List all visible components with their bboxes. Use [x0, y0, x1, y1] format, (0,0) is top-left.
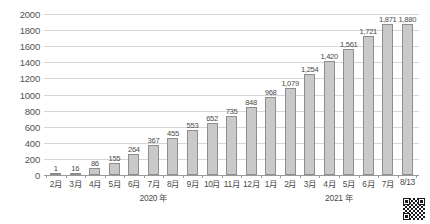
bar[interactable]: 367	[148, 145, 159, 175]
bar-value-label: 1	[54, 164, 58, 173]
bar[interactable]: 652	[207, 123, 218, 175]
bar[interactable]: 1,721	[363, 36, 374, 175]
bar-value-label: 968	[265, 88, 277, 97]
bar-value-label: 155	[108, 154, 120, 163]
y-axis-tick-label: 1400	[20, 57, 40, 68]
bar-slot: 1,561	[339, 14, 359, 175]
bar-value-label: 553	[187, 121, 199, 130]
bar-slot: 968	[261, 14, 281, 175]
bar[interactable]: 848	[246, 107, 257, 175]
x-axis-tick-label: 8/13	[398, 177, 418, 191]
bar[interactable]: 968	[265, 97, 276, 175]
qr-code[interactable]	[402, 197, 426, 221]
x-axis-tick-label: 4月	[319, 177, 339, 191]
qr-finder-top-left	[403, 198, 410, 205]
bar-value-label: 652	[206, 114, 218, 123]
bar-slot: 264	[124, 14, 144, 175]
y-axis-tick-label: 1600	[20, 41, 40, 52]
bar-slot: 1,721	[359, 14, 379, 175]
bar-slot: 1,079	[280, 14, 300, 175]
bar[interactable]: 455	[167, 138, 178, 175]
y-axis: 0200400600800100012001400160018002000	[0, 14, 40, 175]
bar[interactable]: 1,420	[324, 61, 335, 175]
qr-finder-bottom-left	[403, 213, 410, 220]
bar-slot: 735	[222, 14, 242, 175]
y-axis-tick-label: 2000	[20, 9, 40, 20]
bar-value-label: 1,079	[281, 79, 299, 88]
x-axis-tick-label: 5月	[339, 177, 359, 191]
bar-slot: 86	[85, 14, 105, 175]
y-axis-tick-label: 0	[35, 170, 40, 181]
x-axis-tick-label: 5月	[105, 177, 125, 191]
bar[interactable]: 735	[226, 116, 237, 175]
x-axis-tick-label: 12月	[241, 177, 261, 191]
bar-slot: 1	[46, 14, 66, 175]
bar-value-label: 1,721	[360, 27, 378, 36]
bar-slot: 455	[163, 14, 183, 175]
y-axis-tick-label: 1200	[20, 73, 40, 84]
x-axis-tick-label: 8月	[163, 177, 183, 191]
bar[interactable]: 86	[89, 168, 100, 175]
bar-chart: 0200400600800100012001400160018002000 11…	[0, 0, 430, 224]
bar-slot: 553	[183, 14, 203, 175]
bar-value-label: 264	[128, 145, 140, 154]
x-axis-tick-label: 9月	[183, 177, 203, 191]
y-axis-tick-label: 1800	[20, 25, 40, 36]
bar-value-label: 367	[148, 136, 160, 145]
x-axis-tick-label: 11月	[222, 177, 242, 191]
x-axis-tick-label: 3月	[300, 177, 320, 191]
x-axis-tick-label: 7月	[144, 177, 164, 191]
y-axis-tick-label: 200	[25, 153, 40, 164]
bar-slot: 1,254	[300, 14, 320, 175]
bar-value-label: 1,420	[320, 52, 338, 61]
y-axis-tick-label: 400	[25, 137, 40, 148]
bar-slot: 155	[105, 14, 125, 175]
bar[interactable]: 1,254	[304, 74, 315, 175]
bar[interactable]: 155	[109, 163, 120, 175]
bar-slot: 367	[144, 14, 164, 175]
x-axis-tick-label: 2月	[280, 177, 300, 191]
bar-slot: 1,420	[319, 14, 339, 175]
x-axis-tick-label: 6月	[359, 177, 379, 191]
bar-value-label: 1,561	[340, 40, 358, 49]
year-group-caption-2020: 2020 年	[46, 191, 261, 203]
x-axis-tick-label: 1月	[261, 177, 281, 191]
x-axis-tick-label: 7月	[378, 177, 398, 191]
x-axis-tick-label: 6月	[124, 177, 144, 191]
year-group-caption-2021: 2021 年	[261, 191, 417, 203]
bar-value-label: 1,871	[379, 15, 397, 24]
bar-value-label: 455	[167, 129, 179, 138]
x-axis-tick-label: 10月	[202, 177, 222, 191]
bar-value-label: 735	[226, 107, 238, 116]
bar[interactable]: 553	[187, 130, 198, 175]
y-axis-tick-label: 800	[25, 105, 40, 116]
bar-slot: 848	[241, 14, 261, 175]
bar-value-label: 1,880	[399, 15, 417, 24]
qr-code-pattern	[403, 198, 425, 220]
x-axis-tick-label: 2月	[46, 177, 66, 191]
plot-area: 116861552643674555536527358489681,0791,2…	[44, 14, 419, 175]
x-axis-tick-label: 3月	[66, 177, 86, 191]
bar-value-label: 86	[91, 159, 99, 168]
y-axis-tick-label: 1000	[20, 89, 40, 100]
bar-value-label: 1,254	[301, 65, 319, 74]
bar[interactable]: 1,871	[382, 24, 393, 175]
bar-slot: 1,871	[378, 14, 398, 175]
bar-slot: 1,880	[398, 14, 418, 175]
bar[interactable]: 264	[128, 154, 139, 175]
bar[interactable]: 1,880	[402, 24, 413, 175]
x-axis: 2月3月4月5月6月7月8月9月10月11月12月1月2月3月4月5月6月7月8…	[44, 177, 419, 191]
bar[interactable]: 1,561	[343, 49, 354, 175]
bar-value-label: 848	[245, 98, 257, 107]
x-axis-tick-label: 4月	[85, 177, 105, 191]
bar-slot: 652	[202, 14, 222, 175]
bar-series: 116861552643674555536527358489681,0791,2…	[44, 14, 419, 175]
bar-value-label: 16	[71, 164, 79, 173]
bar[interactable]: 1,079	[285, 88, 296, 175]
y-axis-tick-label: 600	[25, 121, 40, 132]
bar-slot: 16	[66, 14, 86, 175]
qr-finder-top-right	[418, 198, 425, 205]
